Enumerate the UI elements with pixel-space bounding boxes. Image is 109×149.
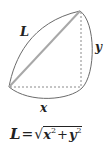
term1-base: x: [43, 127, 51, 142]
radicand: x2+y2: [43, 126, 81, 142]
term2-base: y: [69, 127, 77, 142]
formula-plus: +: [57, 127, 68, 142]
label-y: y: [94, 40, 103, 54]
term2-exponent: 2: [77, 126, 82, 135]
formula-lhs: L: [10, 125, 21, 143]
label-L: L: [19, 24, 29, 39]
term1-exponent: 2: [51, 126, 56, 135]
diagonal-line: [9, 11, 80, 87]
radical-sign: √: [34, 126, 43, 142]
label-x: x: [39, 101, 48, 115]
pythagorean-formula: L=√x2+y2: [10, 124, 100, 144]
formula-equals: =: [22, 126, 34, 142]
